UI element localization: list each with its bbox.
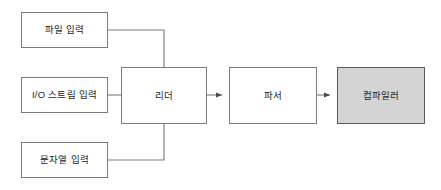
node-string-input-label: 문자열 입력 [40,155,89,165]
flowchart-diagram: 파일 입력 I/O 스트림 입력 문자열 입력 리더 파서 컴파일러 [0,0,441,190]
node-parser-label: 파서 [264,91,282,101]
node-io-stream-input-label: I/O 스트림 입력 [32,90,97,100]
node-file-input-label: 파일 입력 [45,25,85,35]
edge-file-input-to-reader [108,30,164,67]
node-compiler[interactable]: 컴파일러 [337,67,425,124]
node-reader[interactable]: 리더 [121,67,207,124]
node-file-input[interactable]: 파일 입력 [21,12,108,48]
node-reader-label: 리더 [155,91,173,101]
node-parser[interactable]: 파서 [229,67,317,124]
node-compiler-label: 컴파일러 [363,91,400,101]
edge-string-input-to-reader [108,124,164,160]
node-io-stream-input[interactable]: I/O 스트림 입력 [21,77,108,113]
node-string-input[interactable]: 문자열 입력 [21,142,108,178]
